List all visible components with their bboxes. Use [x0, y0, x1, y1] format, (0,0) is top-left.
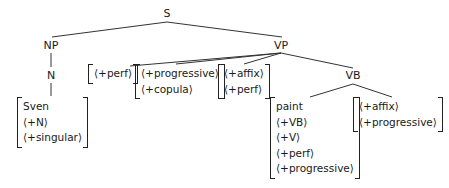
node-vp: VP — [274, 40, 288, 52]
lexeme-sven: Sven — [23, 99, 82, 115]
feature-vb: ⟨+VB⟩ — [276, 115, 354, 131]
edge-s-np — [52, 22, 167, 37]
edge-vp-vb — [281, 53, 353, 68]
feature-copula: ⟨+copula⟩ — [141, 82, 219, 98]
feature-perf: ⟨+perf⟩ — [276, 146, 354, 162]
lexeme-paint: paint — [276, 99, 354, 115]
feature-progressive: ⟨+progressive⟩ — [141, 66, 219, 82]
node-n: N — [47, 70, 55, 82]
feature-box-perf: ⟨+perf⟩ — [88, 64, 138, 84]
feature-singular: ⟨+singular⟩ — [23, 130, 82, 146]
edge-vb-paint — [310, 84, 353, 97]
feature-box-sven: Sven ⟨+N⟩ ⟨+singular⟩ — [17, 97, 88, 148]
feature-perf: ⟨+perf⟩ — [224, 82, 264, 98]
feature-box-affix-progressive: ⟨+affix⟩ ⟨+progressive⟩ — [353, 97, 443, 132]
syntax-tree-diagram: S NP N VP VB Sven ⟨+N⟩ ⟨+singular⟩ ⟨+per… — [0, 0, 449, 188]
node-vb: VB — [345, 70, 360, 82]
feature-progressive: ⟨+progressive⟩ — [276, 161, 354, 177]
feature-box-paint: paint ⟨+VB⟩ ⟨+V⟩ ⟨+perf⟩ ⟨+progressive⟩ — [270, 97, 360, 179]
feature-box-progressive-copula: ⟨+progressive⟩ ⟨+copula⟩ — [135, 64, 225, 99]
node-s: S — [164, 8, 171, 20]
feature-perf: ⟨+perf⟩ — [94, 66, 132, 82]
feature-affix: ⟨+affix⟩ — [359, 99, 437, 115]
edge-vb-affix — [353, 84, 392, 97]
feature-affix: ⟨+affix⟩ — [224, 66, 264, 82]
edge-vp-progressive — [176, 53, 281, 64]
feature-n: ⟨+N⟩ — [23, 115, 82, 131]
edge-s-vp — [167, 22, 282, 37]
node-np: NP — [44, 40, 59, 52]
feature-progressive: ⟨+progressive⟩ — [359, 115, 437, 131]
feature-v: ⟨+V⟩ — [276, 130, 354, 146]
feature-box-affix-perf: ⟨+affix⟩ ⟨+perf⟩ — [218, 64, 270, 99]
